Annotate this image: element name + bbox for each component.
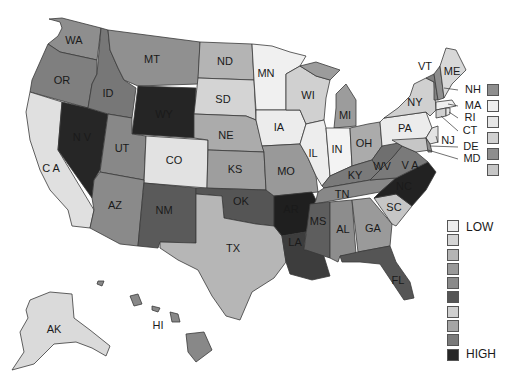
legend-swatch-7 [447, 306, 459, 318]
state-fl[interactable] [340, 246, 414, 300]
state-me[interactable] [440, 48, 466, 98]
state-nd[interactable] [198, 42, 254, 80]
legend-swatch-1 [447, 220, 459, 232]
label-ri: RI [465, 111, 476, 123]
label-de: DE [463, 140, 478, 152]
legend-swatch-10 [447, 349, 459, 361]
state-co[interactable] [144, 136, 208, 188]
legend-swatch-6 [447, 291, 459, 303]
swatch-de [487, 148, 499, 160]
state-ct[interactable] [436, 108, 446, 118]
legend-swatch-9 [447, 334, 459, 346]
state-hi[interactable] [97, 281, 212, 362]
state-al[interactable] [330, 200, 356, 262]
legend-swatch-2 [447, 234, 459, 246]
label-ct: CT [463, 124, 478, 136]
legend-swatch-4 [447, 263, 459, 275]
swatch-nh [487, 84, 499, 96]
state-ny[interactable] [384, 78, 436, 118]
state-ks[interactable] [207, 150, 266, 190]
swatch-ma [487, 100, 499, 112]
legend-low-label: LOW [466, 220, 493, 234]
label-vt: VT [418, 60, 432, 72]
swatch-ri [487, 116, 499, 128]
state-az[interactable] [90, 172, 144, 246]
legend [447, 220, 459, 363]
label-nh: NH [465, 83, 481, 95]
swatch-ct [487, 132, 499, 144]
label-hi: HI [153, 319, 164, 331]
legend-swatch-3 [447, 249, 459, 261]
label-md: MD [463, 152, 480, 164]
northeast-swatches [487, 84, 499, 180]
state-sd[interactable] [194, 78, 256, 120]
swatch-md [487, 164, 499, 176]
us-choropleth-map: WA OR C A N V ID MT WY UT CO AZ NM ND SD… [0, 0, 514, 384]
state-ia[interactable] [256, 110, 306, 146]
state-wy[interactable] [132, 86, 196, 138]
legend-swatch-8 [447, 320, 459, 332]
legend-high-label: HIGH [466, 347, 496, 361]
label-nj: NJ [441, 134, 454, 146]
state-nm[interactable] [138, 183, 196, 248]
label-ma: MA [465, 99, 482, 111]
legend-swatch-5 [447, 277, 459, 289]
state-ak[interactable] [12, 292, 110, 370]
